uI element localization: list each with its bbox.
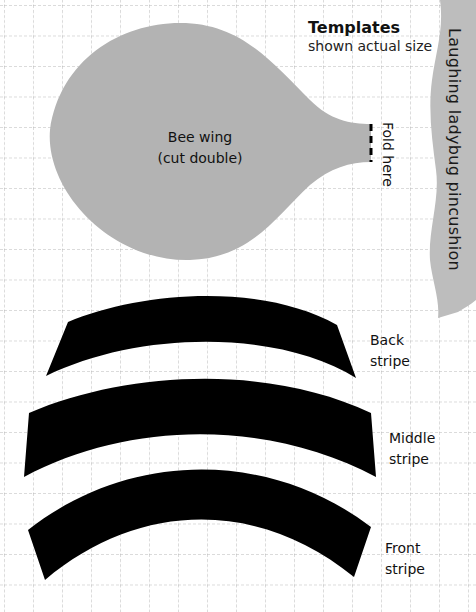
side-ribbon-text: Laughing ladybug pincushion <box>445 28 464 271</box>
back-stripe-label: Back stripe <box>370 330 410 372</box>
back-stripe-label-line1: Back <box>370 330 410 351</box>
front-stripe-label-line2: stripe <box>385 559 425 580</box>
bee-wing-label: Bee wing (cut double) <box>150 127 250 169</box>
front-stripe-template <box>28 470 371 580</box>
back-stripe-label-line2: stripe <box>370 351 410 372</box>
front-stripe-label-line1: Front <box>385 538 425 559</box>
back-stripe-template <box>46 296 356 378</box>
middle-stripe-label-line2: stripe <box>389 449 435 470</box>
front-stripe-label: Front stripe <box>385 538 425 580</box>
middle-stripe-template <box>24 379 376 477</box>
middle-stripe-label: Middle stripe <box>389 428 435 470</box>
middle-stripe-label-line1: Middle <box>389 428 435 449</box>
fold-here-label: Fold here <box>380 122 396 187</box>
bee-wing-label-line2: (cut double) <box>150 148 250 169</box>
bee-wing-label-line1: Bee wing <box>150 127 250 148</box>
page-title: Templates <box>308 18 400 38</box>
page-subtitle: shown actual size <box>308 37 432 55</box>
